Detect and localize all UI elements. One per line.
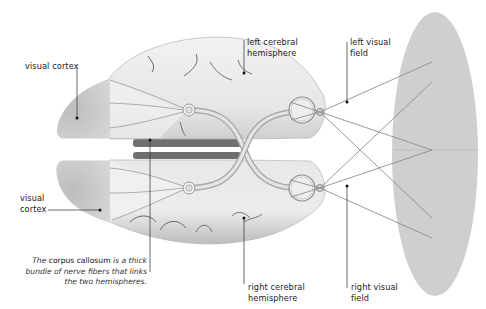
caption-term: corpus callosum [49,256,111,265]
corpus-callosum-bars [133,139,241,159]
label-visual-cortex-bottom: visual cortex [20,193,46,214]
label-text-line1: visual [20,193,46,204]
visual-cortex-bottom [57,161,110,222]
label-right-cerebral-hemisphere: right cerebral hemisphere [248,282,305,303]
label-text: visual cortex [25,61,79,71]
label-left-cerebral-hemisphere: left cerebral hemisphere [247,37,298,58]
visual-field [392,12,478,296]
label-text-line1: left cerebral [247,37,298,48]
label-left-visual-field: left visual field [350,37,391,58]
right-cerebral-hemisphere [57,160,325,244]
label-visual-cortex-top: visual cortex [25,61,79,72]
visual-field-ellipse [392,12,478,296]
caption-line1: The corpus callosum is a thick [26,256,148,267]
corpus-callosum-caption: The corpus callosum is a thick bundle of… [26,256,148,288]
label-text-line1: left visual [350,37,391,48]
label-text-line1: right visual [351,282,398,293]
caption-line2: bundle of nerve fibers that links [26,267,148,278]
caption-line1-rest: is a thick [113,256,147,265]
label-text-line2: field [350,48,391,59]
caption-line3: the two hemispheres. [26,277,148,288]
label-text-line2: field [351,293,398,304]
label-right-visual-field: right visual field [351,282,398,303]
label-text-line1: right cerebral [248,282,305,293]
caption-pre: The [32,256,46,265]
label-text-line2: hemisphere [247,48,298,59]
label-text-line2: hemisphere [248,293,305,304]
diagram-stage: visual cortex visual cortex left cerebra… [0,0,486,309]
label-text-line2: cortex [20,204,46,215]
